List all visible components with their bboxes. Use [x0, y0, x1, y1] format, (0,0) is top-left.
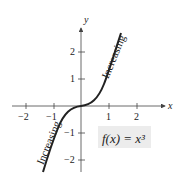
y-tick-label: 1	[70, 74, 75, 84]
plot-area	[0, 0, 190, 179]
x-tick-label: 1	[106, 112, 111, 122]
x-tick-label: 2	[134, 112, 139, 122]
x-axis-label: x	[168, 101, 172, 111]
y-tick-label: −1	[64, 128, 75, 138]
x-tick-label: −2	[18, 112, 29, 122]
function-label: f(x) = x³	[102, 131, 145, 147]
y-tick-label: −2	[64, 155, 75, 165]
function-graph: y x −2 −1 1 2 2 1 −1 −2 Increasing Incre…	[0, 0, 190, 179]
y-tick-label: 2	[70, 47, 75, 57]
y-axis-label: y	[84, 15, 88, 25]
